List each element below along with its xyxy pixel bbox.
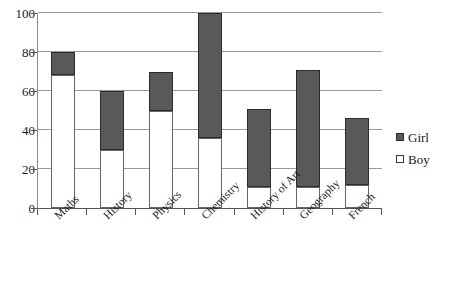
bar-stack[interactable] <box>51 52 75 208</box>
bar-segment-boy[interactable] <box>51 75 75 208</box>
y-tick-label-100: 100 <box>0 7 35 20</box>
y-tick-label-40: 40 <box>0 124 35 137</box>
y-tick-label-0: 0 <box>0 202 35 215</box>
x-tick-mark <box>381 209 382 215</box>
legend-swatch-girl-icon <box>396 133 404 141</box>
legend-item-boy[interactable]: Boy <box>396 150 456 168</box>
bar-segment-girl[interactable] <box>198 13 222 138</box>
stacked-bar-chart: 100 80 60 40 20 0 MathsHistoryPhysicsChe… <box>0 0 458 285</box>
legend: Girl Boy <box>396 128 456 172</box>
y-tick-label-20: 20 <box>0 163 35 176</box>
bar-segment-girl[interactable] <box>247 109 271 187</box>
bar-segment-girl[interactable] <box>100 91 124 150</box>
y-tick-label-80: 80 <box>0 46 35 59</box>
bar-stack[interactable] <box>149 72 173 209</box>
bar-stack[interactable] <box>296 70 320 208</box>
y-tick-label-60: 60 <box>0 85 35 98</box>
bar-segment-girl[interactable] <box>296 70 320 187</box>
bar-segment-girl[interactable] <box>51 52 75 75</box>
legend-swatch-boy-icon <box>396 155 404 163</box>
bar-stack[interactable] <box>100 91 124 208</box>
legend-item-girl[interactable]: Girl <box>396 128 456 146</box>
bar-segment-girl[interactable] <box>149 72 173 111</box>
bar-stack[interactable] <box>198 13 222 208</box>
legend-label-girl: Girl <box>408 131 429 144</box>
bar-segment-girl[interactable] <box>345 118 369 184</box>
legend-label-boy: Boy <box>408 153 430 166</box>
x-axis-labels: MathsHistoryPhysicsChemistryHistory of A… <box>37 213 381 285</box>
